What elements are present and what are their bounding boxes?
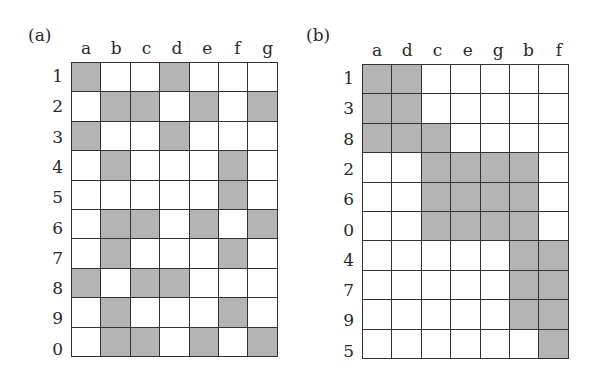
cell-filled (160, 268, 189, 297)
cell-empty (539, 65, 568, 94)
cell-empty (218, 209, 247, 238)
cell-filled (101, 92, 130, 121)
cell-empty (72, 209, 101, 238)
cell-filled (509, 241, 538, 270)
cell-empty (218, 63, 247, 92)
column-label: c (423, 42, 453, 59)
row-label: 3 (47, 129, 63, 146)
column-label: a (71, 40, 101, 57)
cell-empty (130, 298, 159, 327)
cell-empty (421, 94, 450, 123)
cell-empty (72, 327, 101, 356)
cell-empty (160, 180, 189, 209)
cell-empty (480, 300, 509, 329)
cell-filled (72, 121, 101, 150)
cell-empty (160, 327, 189, 356)
cell-filled (539, 300, 568, 329)
row-label: 7 (47, 250, 63, 267)
row-label: 3 (338, 100, 354, 117)
cell-empty (363, 329, 392, 358)
column-label: e (453, 42, 483, 59)
cell-filled (451, 182, 480, 211)
row-label: 4 (338, 252, 354, 269)
cell-empty (248, 268, 277, 297)
cell-empty (189, 239, 218, 268)
cell-empty (101, 121, 130, 150)
grid-row (72, 327, 278, 356)
cell-empty (363, 300, 392, 329)
cell-filled (248, 327, 277, 356)
cell-empty (480, 123, 509, 152)
cell-filled (451, 153, 480, 182)
row-label: 5 (47, 189, 63, 206)
grid-0 (71, 62, 278, 357)
cell-empty (72, 239, 101, 268)
cell-empty (189, 151, 218, 180)
cell-empty (539, 123, 568, 152)
cell-filled (130, 268, 159, 297)
column-label: c (132, 40, 162, 57)
cell-empty (509, 123, 538, 152)
cell-empty (392, 300, 421, 329)
column-label: d (162, 40, 192, 57)
column-label: g (483, 42, 513, 59)
cell-empty (130, 180, 159, 209)
cell-empty (363, 153, 392, 182)
row-label: 1 (47, 68, 63, 85)
cell-empty (130, 121, 159, 150)
column-label: g (253, 40, 283, 57)
grid-row (72, 268, 278, 297)
cell-empty (451, 65, 480, 94)
row-label: 2 (47, 98, 63, 115)
column-label: a (362, 42, 392, 59)
column-label: b (514, 42, 544, 59)
cell-filled (392, 123, 421, 152)
cell-filled (509, 270, 538, 299)
cell-filled (101, 327, 130, 356)
cell-empty (421, 241, 450, 270)
cell-empty (160, 151, 189, 180)
grid-row (72, 151, 278, 180)
cell-empty (101, 63, 130, 92)
cell-empty (509, 94, 538, 123)
panel-label-0: (a) (28, 27, 51, 44)
cell-empty (392, 211, 421, 240)
grid-row (72, 239, 278, 268)
row-label: 2 (338, 161, 354, 178)
cell-filled (189, 92, 218, 121)
cell-empty (509, 329, 538, 358)
cell-filled (218, 298, 247, 327)
cell-empty (160, 298, 189, 327)
grid-row (363, 329, 569, 358)
cell-filled (392, 94, 421, 123)
cell-empty (218, 327, 247, 356)
grid-1 (362, 64, 569, 359)
cell-empty (189, 63, 218, 92)
cell-filled (509, 153, 538, 182)
cell-filled (480, 153, 509, 182)
cell-filled (363, 94, 392, 123)
cell-filled (101, 239, 130, 268)
grid-row (363, 153, 569, 182)
cell-filled (218, 180, 247, 209)
cell-filled (72, 63, 101, 92)
cell-filled (363, 65, 392, 94)
cell-filled (480, 182, 509, 211)
cell-filled (189, 209, 218, 238)
cell-empty (189, 268, 218, 297)
cell-empty (101, 180, 130, 209)
grid-row (72, 209, 278, 238)
cell-empty (451, 270, 480, 299)
cell-empty (72, 151, 101, 180)
cell-empty (72, 180, 101, 209)
row-label: 9 (338, 312, 354, 329)
grid-row (363, 211, 569, 240)
row-label: 4 (47, 159, 63, 176)
cell-empty (248, 63, 277, 92)
cell-empty (363, 182, 392, 211)
row-label: 8 (338, 131, 354, 148)
cell-empty (189, 121, 218, 150)
grid-row (72, 121, 278, 150)
grid-row (72, 298, 278, 327)
cell-empty (248, 239, 277, 268)
